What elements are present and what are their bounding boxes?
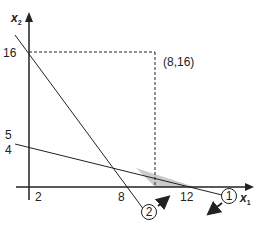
x-tick-2: 2: [35, 190, 42, 204]
feasible-region: [136, 168, 195, 187]
y-tick-4: 4: [5, 143, 12, 157]
x-tick-12: 12: [180, 190, 194, 204]
y-tick-5: 5: [5, 128, 12, 142]
y-axis-label: x2: [10, 11, 22, 26]
y-axis-arrow-icon: [25, 12, 33, 22]
constraint-2-label: 2: [146, 205, 153, 219]
constraint-1-label: 1: [226, 189, 233, 203]
x-tick-8: 8: [118, 190, 125, 204]
x-axis-arrow-icon: [245, 183, 254, 191]
point-label: (8,16): [163, 55, 194, 69]
x-axis-label: x1: [239, 191, 251, 206]
lp-diagram: 1 2 x2 x1 16 5 4 2 8 12 (8,16): [0, 0, 259, 229]
constraint-1-direction-arrow-icon: [212, 203, 222, 211]
constraint-2-direction-arrow-icon: [158, 200, 165, 206]
y-tick-16: 16: [3, 46, 17, 60]
